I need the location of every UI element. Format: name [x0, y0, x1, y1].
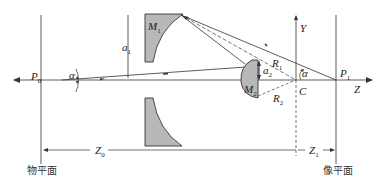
optical-diagram: P0 α a1 M1 M2 a2 R1 R2 α C Y P1 Z Z0 Z1 …	[0, 0, 378, 181]
label-p1: P1	[340, 68, 350, 82]
label-y: Y	[300, 23, 306, 34]
ray-m2-to-m1	[181, 15, 245, 64]
label-p0: P0	[31, 71, 41, 85]
label-alpha-right: α	[302, 68, 308, 79]
incoming-ray	[62, 67, 246, 80]
label-z1: Z1	[309, 145, 319, 159]
alpha-arc-left	[76, 69, 79, 92]
label-r1: R1	[272, 58, 282, 72]
label-m2: M2	[244, 84, 257, 98]
label-c: C	[299, 86, 306, 97]
label-z: Z	[354, 84, 360, 95]
label-a1: a1	[122, 42, 131, 56]
diagram-graphics	[0, 0, 378, 181]
label-r2: R2	[273, 93, 283, 107]
mirror-m1-bottom	[145, 98, 182, 146]
label-image-plane: 像平面	[323, 166, 353, 176]
label-a2: a2	[263, 65, 272, 79]
label-z0: Z0	[95, 145, 105, 159]
label-object-plane: 物平面	[27, 166, 57, 176]
ray-marker	[265, 44, 267, 46]
label-m1: M1	[148, 21, 161, 35]
label-alpha-left: α	[69, 70, 75, 81]
